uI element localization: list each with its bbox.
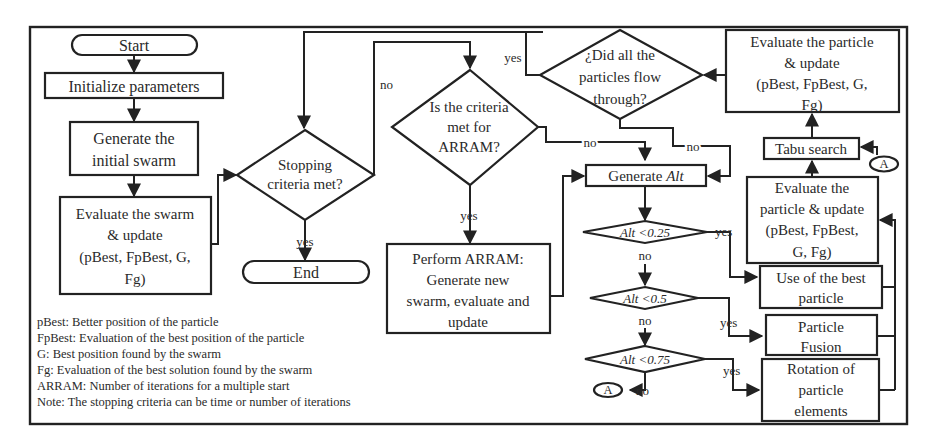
all-flow-line1: ¿Did all the: [585, 47, 655, 63]
start-label: Start: [119, 37, 150, 54]
eval-top-line2: & update: [784, 55, 840, 71]
alt-less-025-decision: Alt <0.25: [583, 221, 707, 243]
all-flow-line3: through?: [593, 91, 647, 107]
stopping-yes-label: yes: [296, 234, 313, 249]
stopping-criteria-decision: Stopping criteria met?: [237, 130, 374, 220]
arram-check-line1: Is the criteria: [429, 99, 508, 115]
evaluate-swarm-line3: (pBest, FpBest, G,: [79, 249, 190, 266]
end-label: End: [293, 264, 319, 281]
rotation-elements-box: Rotation of particle elements: [762, 359, 879, 421]
evaluate-particle-mid-box: Evaluate the particle & update (pBest, F…: [747, 177, 878, 263]
fusion-line2: Fusion: [801, 339, 842, 355]
legend-arram: ARRAM: Number of iterations for a multip…: [37, 379, 290, 393]
flowchart-diagram: Start Initialize parameters Generate the…: [0, 0, 938, 446]
perform-arram-line4: update: [448, 314, 488, 330]
legend: pBest: Better position of the particle F…: [37, 315, 351, 409]
fusion-line1: Particle: [798, 319, 844, 335]
generate-initial-line2: initial swarm: [92, 152, 177, 169]
eval-top-line1: Evaluate the particle: [750, 34, 874, 50]
evaluate-swarm-line2: & update: [107, 227, 163, 243]
evaluate-swarm-line1: Evaluate the swarm: [76, 206, 195, 222]
rotation-line3: elements: [794, 403, 847, 419]
perform-arram-line2: Generate new: [427, 272, 510, 288]
arram-check-line3: ARRAM?: [438, 139, 500, 155]
generate-alt-label: Generate Alt: [608, 168, 684, 184]
connector-a-bottom: A: [594, 383, 622, 397]
perform-arram-line3: swarm, evaluate and: [407, 293, 530, 309]
eval-mid-line4: G, Fg): [792, 244, 831, 261]
rotation-line1: Rotation of: [787, 361, 855, 377]
generate-initial-swarm-box: Generate the initial swarm: [70, 122, 198, 175]
legend-pbest: pBest: Better position of the particle: [37, 315, 219, 329]
use-best-line1: Use of the best: [776, 270, 866, 286]
legend-fpbest: FpBest: Evaluation of the best position …: [37, 331, 305, 345]
alt-025-yes-label: yes: [715, 224, 732, 239]
alt-025-label: Alt <0.25: [619, 225, 670, 240]
alt-less-05-decision: Alt <0.5: [590, 287, 698, 309]
alt-025-no-label: no: [639, 248, 652, 263]
arram-check-line2: met for: [447, 119, 491, 135]
connector-a-right-label: A: [879, 157, 888, 171]
eval-top-line4: Fg): [802, 97, 823, 114]
use-best-line2: particle: [799, 290, 844, 306]
all-particles-decision: ¿Did all the particles flow through?: [540, 30, 702, 119]
eval-mid-line2: particle & update: [760, 201, 864, 217]
alt-075-label: Alt <0.75: [619, 352, 670, 367]
alt-05-no-label: no: [639, 313, 652, 328]
initialize-label: Initialize parameters: [68, 78, 199, 96]
start-terminal: Start: [72, 35, 197, 55]
alt-less-075-decision: Alt <0.75: [585, 346, 705, 372]
arram-criteria-decision: Is the criteria met for ARRAM?: [392, 70, 538, 185]
evaluate-swarm-box: Evaluate the swarm & update (pBest, FpBe…: [60, 197, 211, 294]
perform-arram-box: Perform ARRAM: Generate new swarm, evalu…: [387, 244, 550, 333]
all-flow-yes-label: yes: [504, 50, 521, 65]
connector-a-right: A: [870, 157, 898, 172]
connector-a-bottom-label: A: [603, 383, 612, 397]
all-flow-line2: particles flow: [579, 69, 661, 85]
generate-alt-box: Generate Alt: [586, 165, 706, 186]
stopping-no-label: no: [380, 77, 393, 92]
evaluate-swarm-line4: Fg): [125, 271, 146, 288]
arram-yes-label: yes: [460, 208, 477, 223]
alt-075-yes-label: yes: [723, 363, 740, 378]
arram-no-label: no: [584, 135, 597, 150]
stopping-line1: Stopping: [278, 157, 333, 173]
use-best-particle-box: Use of the best particle: [760, 266, 882, 308]
stopping-line2: criteria met?: [267, 176, 343, 192]
alt-05-label: Alt <0.5: [622, 291, 667, 306]
particle-fusion-box: Particle Fusion: [766, 315, 877, 355]
perform-arram-line1: Perform ARRAM:: [412, 251, 523, 267]
eval-top-line3: (pBest, FpBest, G,: [756, 76, 867, 93]
eval-mid-line1: Evaluate the: [775, 180, 850, 196]
legend-g: G: Best position found by the swarm: [37, 347, 221, 361]
initialize-parameters-box: Initialize parameters: [45, 73, 223, 98]
all-flow-no-label: no: [687, 139, 700, 154]
eval-mid-line3: (pBest, FpBest,: [766, 222, 859, 239]
legend-fg: Fg: Evaluation of the best solution foun…: [37, 363, 313, 377]
alt-075-no-label: no: [636, 383, 649, 398]
end-terminal: End: [243, 261, 369, 283]
legend-note: Note: The stopping criteria can be time …: [37, 395, 351, 409]
tabu-search-box: Tabu search: [764, 138, 859, 159]
alt-05-yes-label: yes: [720, 315, 737, 330]
evaluate-particle-top-box: Evaluate the particle & update (pBest, F…: [726, 30, 899, 114]
rotation-line2: particle: [799, 382, 844, 398]
tabu-search-label: Tabu search: [775, 141, 847, 157]
generate-initial-line1: Generate the: [93, 130, 174, 147]
